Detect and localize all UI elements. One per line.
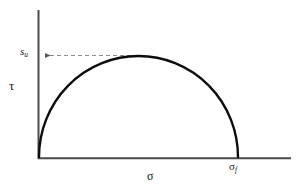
- sigma-axis-label: σ: [147, 170, 153, 182]
- figure-canvas: [0, 0, 298, 194]
- sigma-f-label: σf: [229, 161, 237, 174]
- sigma-f-subscript: f: [235, 165, 237, 174]
- su-subscript: u: [24, 50, 28, 59]
- su-label: su: [20, 46, 28, 59]
- mohr-circle-figure: su τ σ σf: [0, 0, 298, 194]
- mohr-circle-arc: [39, 56, 238, 157]
- tau-axis-label: τ: [9, 79, 14, 92]
